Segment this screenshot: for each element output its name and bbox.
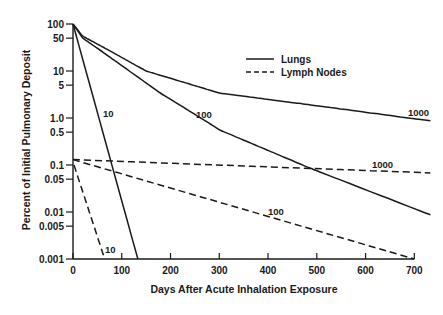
series-label: 10	[103, 108, 114, 119]
x-tick-label: 300	[211, 265, 228, 276]
y-tick-label: 100	[47, 19, 64, 30]
x-tick-label: 600	[357, 265, 374, 276]
y-tick-label: 0.1	[50, 160, 64, 171]
x-tick-label: 0	[70, 265, 76, 276]
series-line-lungs-10	[73, 24, 138, 259]
series-line-lymph-nodes-10	[74, 165, 105, 259]
y-tick-label: 5	[58, 80, 64, 91]
series-labels: 100010010100010010	[103, 107, 429, 255]
y-tick-label: 10	[53, 66, 65, 77]
series-line-lungs-1000	[73, 24, 430, 121]
series-label: 100	[268, 206, 284, 217]
y-tick-label: 0.005	[39, 221, 64, 232]
x-tick-label: 400	[260, 265, 277, 276]
series-label: 100	[196, 109, 212, 120]
y-tick-label: 0.01	[45, 207, 65, 218]
legend: LungsLymph Nodes	[246, 54, 347, 78]
legend-label: Lungs	[281, 54, 311, 65]
x-tick-label: 200	[162, 265, 179, 276]
x-tick-label: 500	[308, 265, 325, 276]
axes: 100501051.00.50.10.050.010.0050.00101002…	[39, 19, 423, 277]
series-label: 1000	[408, 107, 429, 118]
y-tick-label: 0.05	[45, 174, 65, 185]
series-label: 1000	[372, 159, 393, 170]
series-label: 10	[105, 244, 116, 255]
series-line-lungs-100	[73, 24, 430, 215]
x-tick-label: 700	[406, 265, 423, 276]
y-tick-label: 50	[53, 33, 65, 44]
x-tick-label: 100	[113, 265, 130, 276]
y-tick-label: 0.001	[39, 254, 64, 265]
y-tick-label: 0.5	[50, 127, 64, 138]
decay-chart: 100501051.00.50.10.050.010.0050.00101002…	[0, 0, 443, 315]
legend-label: Lymph Nodes	[281, 67, 347, 78]
x-axis-title: Days After Acute Inhalation Exposure	[150, 283, 337, 295]
y-tick-label: 1.0	[50, 113, 64, 124]
y-axis-title: Percent of Initial Pulmonary Deposit	[20, 49, 32, 230]
